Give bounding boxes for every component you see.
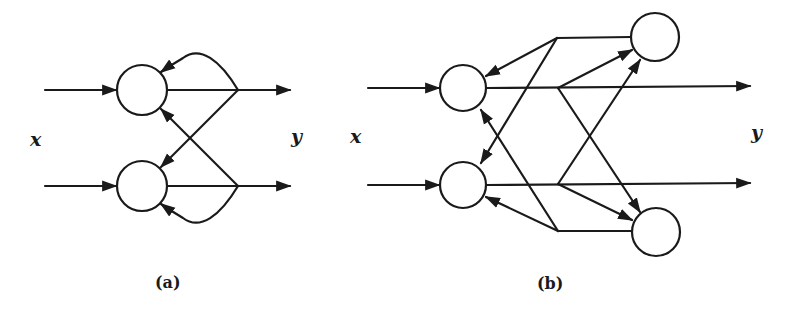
self-loop-a-top — [161, 53, 238, 90]
input-label-a: x — [29, 128, 42, 150]
hidden-top-to-left-bottom — [481, 38, 557, 163]
neuron-b-hidden-bottom — [632, 208, 680, 256]
panel-b: x y (b) — [349, 13, 764, 293]
hidden-top-output — [557, 37, 631, 38]
neuron-a-top — [117, 65, 167, 115]
neuron-a-bottom — [117, 161, 167, 211]
panel-a: x y (a) — [29, 53, 304, 292]
output-label-a: y — [290, 125, 304, 147]
output-label-b: y — [750, 121, 764, 143]
neuron-b-hidden-top — [631, 13, 679, 61]
input-label-b: x — [349, 125, 362, 147]
neuron-b-left-top — [440, 65, 486, 111]
left-top-to-hidden-top — [558, 50, 632, 88]
self-loop-a-bottom — [161, 186, 238, 223]
neuron-b-left-bottom — [440, 162, 486, 208]
cross-edge-a-top-to-bottom — [161, 90, 238, 167]
caption-a: (a) — [155, 273, 181, 292]
left-bottom-to-hidden-bottom — [558, 184, 632, 220]
cross-edge-a-bottom-to-top — [161, 109, 238, 186]
caption-b: (b) — [537, 274, 563, 293]
left-bottom-to-hidden-top — [558, 60, 640, 184]
neural-network-figure: x y (a) x y (b) — [0, 0, 792, 313]
left-top-to-hidden-bottom — [558, 88, 640, 212]
